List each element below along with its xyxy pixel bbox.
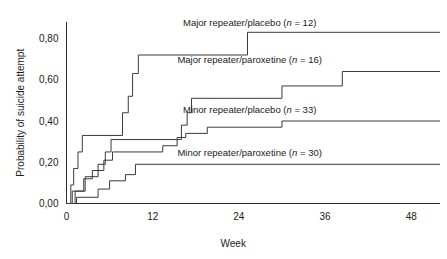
y-tick-labels: 0,000,200,400,600,80	[39, 33, 59, 209]
x-tick-label: 36	[320, 211, 332, 222]
x-tick-label: 48	[406, 211, 418, 222]
x-axis-title: Week	[221, 238, 247, 249]
kaplan-meier-chart: 0,000,200,400,600,80 012243648 Major rep…	[0, 0, 447, 259]
x-tick-label: 0	[64, 211, 70, 222]
y-tick-label: 0,60	[39, 74, 59, 85]
y-axis-title: Probability of suicide attempt	[15, 49, 26, 177]
y-tick-label: 0,20	[39, 157, 59, 168]
series-curve-1	[67, 72, 441, 204]
chart-canvas: 0,000,200,400,600,80 012243648 Major rep…	[0, 0, 447, 259]
x-tick-label: 12	[147, 211, 159, 222]
y-tick-label: 0,00	[39, 198, 59, 209]
series-label-2: Minor repeater/placebo (n = 33)	[183, 104, 316, 115]
series-label-0: Major repeater/placebo (n = 12)	[183, 17, 316, 28]
y-tick-label: 0,80	[39, 33, 59, 44]
series-label-1: Major repeater/paroxetine (n = 16)	[177, 54, 321, 65]
series-label-3: Minor repeater/paroxetine (n = 30)	[177, 147, 321, 158]
series-annotations: Major repeater/placebo (n = 12)Major rep…	[177, 17, 321, 158]
y-tick-label: 0,40	[39, 116, 59, 127]
series-curve-3	[67, 164, 441, 203]
x-tick-labels: 012243648	[64, 211, 418, 222]
x-tick-label: 24	[233, 211, 245, 222]
